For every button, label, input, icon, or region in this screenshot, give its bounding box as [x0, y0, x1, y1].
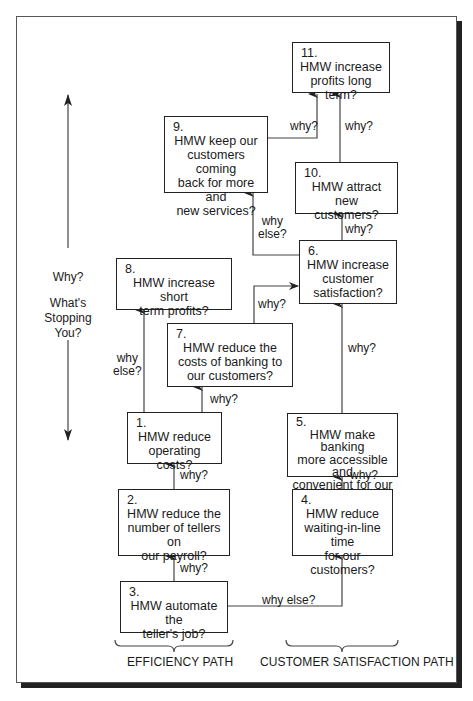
- box-text: customers?: [300, 208, 393, 222]
- efficiency-brace: [115, 640, 233, 652]
- hmw-box-2: 2. HMW reduce the number of tellers on o…: [118, 489, 230, 556]
- box-text: our payroll?: [123, 549, 225, 563]
- box-number: 2.: [123, 493, 225, 507]
- box-number: 10.: [300, 166, 393, 180]
- edge-label-1-7: why?: [210, 392, 238, 406]
- box-text: waiting-in-line time: [297, 521, 388, 549]
- box-text: our customers?: [172, 369, 288, 383]
- box-text: HMW increase short: [121, 276, 227, 304]
- side-whats-stopping-label: What's Stopping You?: [40, 296, 96, 341]
- box-text: for our customers?: [297, 549, 388, 577]
- hmw-box-3: 3. HMW automate the teller's job?: [120, 581, 228, 633]
- box-text: profits long term?: [297, 74, 385, 102]
- box-text: HMW automate the: [125, 599, 223, 627]
- customer-satisfaction-path-label: CUSTOMER SATISFACTION PATH: [260, 655, 454, 669]
- hmw-box-8: 8. HMW increase short term profits?: [116, 258, 232, 310]
- box-text: HMW increase: [297, 60, 385, 74]
- hmw-box-5: 5. HMW make banking more accessible and …: [287, 413, 398, 477]
- hmw-box-10: 10. HMW attract new customers?: [295, 162, 398, 214]
- box-text: HMW reduce the: [172, 341, 288, 355]
- box-text: HMW make banking: [292, 429, 393, 454]
- box-text: HMW increase: [304, 258, 392, 272]
- hmw-box-4: 4. HMW reduce waiting-in-line time for o…: [292, 489, 393, 556]
- box-text: HMW reduce: [132, 430, 217, 444]
- edge-label-4-5: why?: [350, 468, 378, 482]
- edge-label-3-2: why?: [180, 561, 208, 575]
- side-whats: What's: [40, 296, 96, 311]
- edge-label-5-6: why?: [348, 341, 376, 355]
- edge-label-10-11: why?: [345, 119, 373, 133]
- side-stopping: Stopping: [40, 311, 96, 326]
- else-word: else?: [113, 365, 142, 378]
- else-word: else?: [258, 228, 287, 241]
- box-number: 11.: [297, 46, 385, 60]
- hmw-box-9: 9. HMW keep our customers coming back fo…: [164, 116, 268, 193]
- edge-label-6-9: why else?: [258, 215, 287, 241]
- box-number: 8.: [121, 262, 227, 276]
- box-number: 7.: [172, 327, 288, 341]
- box-number: 6.: [304, 244, 392, 258]
- edge-label-1-8: why else?: [113, 352, 142, 378]
- box-text: HMW reduce the: [123, 507, 225, 521]
- customer-brace: [286, 640, 398, 652]
- hmw-box-1: 1. HMW reduce operating costs?: [127, 412, 222, 464]
- edge-label-3-4: why else?: [262, 593, 315, 607]
- box-text: term profits?: [121, 304, 227, 318]
- efficiency-path-label: EFFICIENCY PATH: [127, 655, 233, 669]
- side-why-label: Why?: [50, 270, 86, 284]
- box-text: satisfaction?: [304, 286, 392, 300]
- box-text: HMW reduce: [297, 507, 388, 521]
- box-text: number of tellers on: [123, 521, 225, 549]
- box-text: costs of banking to: [172, 355, 288, 369]
- edge-label-7-6: why?: [258, 297, 286, 311]
- box-text: customers coming: [169, 148, 263, 176]
- box-text: new services?: [169, 204, 263, 218]
- box-number: 4.: [297, 493, 388, 507]
- hmw-box-6: 6. HMW increase customer satisfaction?: [299, 240, 397, 304]
- box-text: customer: [304, 272, 392, 286]
- edge-label-2-1: why?: [180, 468, 208, 482]
- box-number: 9.: [169, 120, 263, 134]
- side-you: You?: [40, 326, 96, 341]
- box-text: back for more and: [169, 176, 263, 204]
- box-number: 5.: [292, 416, 393, 429]
- box-number: 3.: [125, 585, 223, 599]
- box-text: HMW attract new: [300, 180, 393, 208]
- box-text: HMW keep our: [169, 134, 263, 148]
- hmw-box-7: 7. HMW reduce the costs of banking to ou…: [167, 323, 293, 387]
- box-text: teller's job?: [125, 627, 223, 641]
- edge-label-9-11: why?: [290, 119, 318, 133]
- box-number: 1.: [132, 416, 217, 430]
- edge-label-6-10: why?: [345, 222, 373, 236]
- hmw-box-11: 11. HMW increase profits long term?: [292, 42, 390, 93]
